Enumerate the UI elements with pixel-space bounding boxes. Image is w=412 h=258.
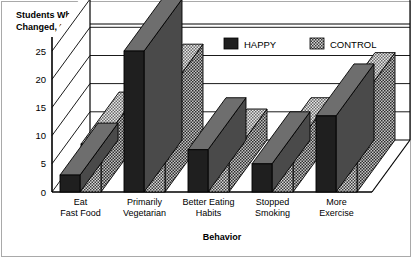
y-tick-0: 0 [41, 187, 46, 198]
chart-figure: Students Who Changed, % [0, 0, 412, 258]
category-label-1-line0: Primarily [127, 197, 162, 207]
bar-front-face [252, 164, 272, 192]
bar-front-face [60, 175, 80, 192]
category-label-2-line0: Better Eating [182, 197, 234, 207]
legend-swatch-control [310, 38, 324, 49]
y-tick-20: 20 [35, 74, 46, 85]
category-label-1-line1: Vegetarian [123, 208, 166, 218]
y-tick-15: 15 [35, 102, 46, 113]
category-label-0-line0: Eat [74, 197, 88, 207]
x-axis-title: Behavior [203, 232, 242, 242]
category-label-2-line1: Habits [196, 208, 222, 218]
bar-front-face [124, 51, 144, 192]
y-tick-25: 25 [35, 46, 46, 57]
bar-front-face [316, 116, 336, 192]
plot-area: 0 5 10 15 20 25 EatFast FoodPrimarilyVeg… [35, 0, 410, 218]
legend-label-happy: HAPPY [244, 39, 277, 50]
category-label-0-line1: Fast Food [60, 208, 101, 218]
category-label-3-line1: Smoking [255, 208, 290, 218]
category-label-3-line0: Stopped [256, 197, 290, 207]
y-tick-5: 5 [41, 158, 46, 169]
y-tick-10: 10 [35, 130, 46, 141]
bar-front-face [188, 150, 208, 192]
category-label-4-line1: Exercise [319, 208, 354, 218]
category-label-4-line0: More [326, 197, 347, 207]
legend-label-control: CONTROL [330, 39, 376, 50]
legend-swatch-happy [224, 38, 238, 49]
grouped-bar-chart-3d: Students Who Changed, % [0, 0, 412, 258]
